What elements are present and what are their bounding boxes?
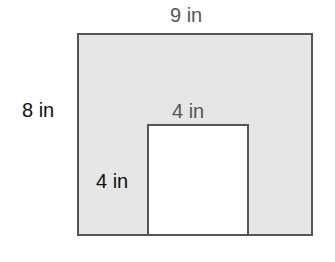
cutout-rectangle	[147, 124, 249, 234]
cutout-width-label: 4 in	[172, 101, 204, 121]
outer-height-label: 8 in	[22, 100, 54, 120]
cutout-height-label: 4 in	[96, 171, 128, 191]
outer-width-label: 9 in	[170, 5, 202, 25]
